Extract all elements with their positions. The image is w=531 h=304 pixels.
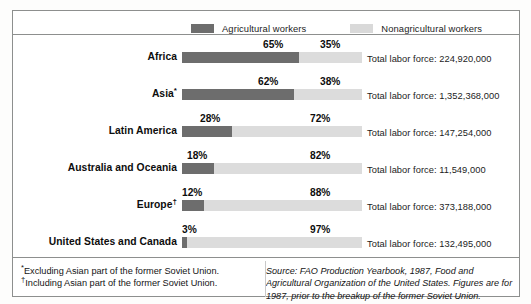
chart-row: Europe† 12% 88% Total labor force: 373,1… [13, 183, 519, 220]
value-label-nonagricultural: 72% [310, 113, 330, 124]
source-note: Source: FAO Production Yearbook, 1987, F… [259, 259, 519, 297]
value-label-nonagricultural: 38% [320, 76, 340, 87]
category-label-text: Africa [148, 51, 178, 62]
total-labor-force-label: Total labor force: 147,254,000 [367, 128, 492, 138]
footnote-asterisk: *Excluding Asian part of the former Sovi… [21, 265, 259, 277]
legend-item-agricultural: Agricultural workers [191, 23, 306, 34]
bar-segment-nonagricultural [182, 200, 362, 211]
bar-segment-agricultural [182, 163, 214, 174]
legend-label-nonagricultural: Nonagricultural workers [381, 23, 482, 34]
legend-swatch-dark-icon [191, 24, 214, 33]
footnote-dagger: †Including Asian part of the former Sovi… [21, 277, 259, 289]
value-label-nonagricultural: 35% [320, 39, 340, 50]
bar-segment-agricultural [182, 126, 232, 137]
category-label-text: Europe [137, 199, 173, 210]
chart-row: United States and Canada 3% 97% Total la… [13, 220, 519, 257]
category-label-europe: Europe† [137, 199, 177, 210]
footnote-text: Including Asian part of the former Sovie… [25, 278, 217, 288]
chart-row: Africa 65% 35% Total labor force: 224,92… [13, 35, 519, 72]
stacked-bar [182, 126, 362, 137]
footer-divider [265, 261, 266, 297]
total-labor-force-label: Total labor force: 373,188,000 [367, 202, 492, 212]
category-label-africa: Africa [148, 51, 178, 62]
value-label-nonagricultural: 82% [310, 150, 330, 161]
legend-swatch-light-icon [350, 24, 373, 33]
chart-row: Asia* 62% 38% Total labor force: 1,352,3… [13, 72, 519, 109]
category-label-united-states-and-canada: United States and Canada [49, 236, 177, 247]
stacked-bar [182, 89, 362, 100]
total-labor-force-label: Total labor force: 224,920,000 [367, 54, 492, 64]
category-label-asia: Asia* [152, 88, 177, 99]
stacked-bar [182, 237, 362, 248]
value-label-agricultural: 18% [187, 150, 207, 161]
chart-figure: Agricultural workers Nonagricultural wor… [0, 0, 531, 304]
bar-segment-agricultural [182, 200, 204, 211]
chart-row: Latin America 28% 72% Total labor force:… [13, 109, 519, 146]
category-label-text: Latin America [109, 125, 177, 136]
bar-segment-agricultural [182, 52, 299, 63]
chart-plot-area: Africa 65% 35% Total labor force: 224,92… [13, 34, 519, 258]
value-label-agricultural: 12% [182, 187, 202, 198]
bar-segment-agricultural [182, 237, 187, 248]
value-label-agricultural: 62% [258, 76, 278, 87]
footnotes-block: *Excluding Asian part of the former Sovi… [13, 259, 259, 297]
stacked-bar [182, 200, 362, 211]
footnote-text: Excluding Asian part of the former Sovie… [24, 266, 219, 276]
bar-segment-agricultural [182, 89, 294, 100]
chart-rows: Africa 65% 35% Total labor force: 224,92… [13, 35, 519, 257]
value-label-agricultural: 65% [263, 39, 283, 50]
chart-footer: *Excluding Asian part of the former Sovi… [13, 259, 519, 297]
value-label-nonagricultural: 97% [310, 224, 330, 235]
total-labor-force-label: Total labor force: 132,495,000 [367, 239, 492, 249]
bar-segment-nonagricultural [182, 237, 362, 248]
chart-row: Australia and Oceania 18% 82% Total labo… [13, 146, 519, 183]
total-labor-force-label: Total labor force: 11,549,000 [367, 165, 486, 175]
stacked-bar [182, 163, 362, 174]
value-label-agricultural: 3% [182, 224, 197, 235]
chart-frame: Agricultural workers Nonagricultural wor… [12, 10, 520, 297]
category-label-text: Asia [152, 88, 174, 99]
value-label-agricultural: 28% [200, 113, 220, 124]
category-label-text: United States and Canada [49, 236, 177, 247]
category-label-australia-and-oceania: Australia and Oceania [68, 162, 177, 173]
footnote-marker: * [174, 86, 177, 95]
stacked-bar [182, 52, 362, 63]
footnote-marker: † [173, 197, 178, 206]
category-label-latin-america: Latin America [109, 125, 177, 136]
value-label-nonagricultural: 88% [310, 187, 330, 198]
legend-label-agricultural: Agricultural workers [222, 23, 306, 34]
total-labor-force-label: Total labor force: 1,352,368,000 [367, 91, 499, 101]
category-label-text: Australia and Oceania [68, 162, 177, 173]
legend-item-nonagricultural: Nonagricultural workers [350, 23, 482, 34]
